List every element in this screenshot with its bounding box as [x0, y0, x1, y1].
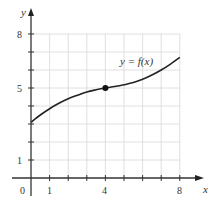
curve-label: y = f(x)	[119, 55, 153, 68]
y-tick-label-1: 1	[17, 155, 22, 166]
axes	[12, 8, 204, 196]
x-axis-label: x	[202, 183, 208, 195]
x-tick-label-1: 1	[47, 185, 52, 196]
chart: y x 0 1 4 8 1 5 8 y = f(x)	[0, 0, 215, 204]
x-tick-label-8: 8	[177, 185, 182, 196]
y-axis-arrow-icon	[28, 8, 34, 16]
y-tick-label-8: 8	[17, 29, 22, 40]
origin-label: 0	[20, 185, 25, 196]
y-tick-label-5: 5	[17, 83, 22, 94]
point-marker	[102, 85, 108, 91]
x-tick-label-4: 4	[102, 185, 107, 196]
x-axis-arrow-icon	[195, 175, 204, 181]
y-axis-label: y	[20, 6, 26, 18]
